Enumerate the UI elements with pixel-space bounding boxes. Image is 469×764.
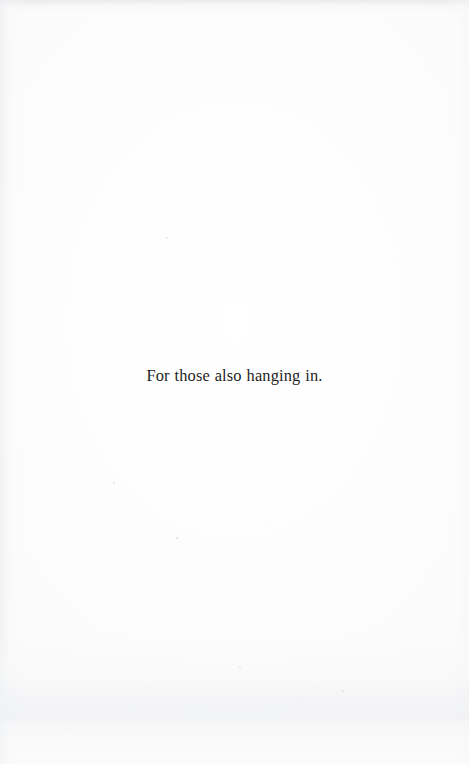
dedication-text: For those also hanging in. [0, 366, 469, 386]
scan-speck [113, 482, 115, 484]
scan-top-edge-shadow [0, 0, 469, 12]
scan-bottom-crease-line [0, 712, 469, 722]
scan-speck [342, 690, 344, 692]
scan-bottom-curvature-shadow [0, 634, 469, 764]
scan-speck [166, 237, 168, 239]
scanned-page: For those also hanging in. [0, 0, 469, 764]
scan-speck [239, 666, 241, 668]
